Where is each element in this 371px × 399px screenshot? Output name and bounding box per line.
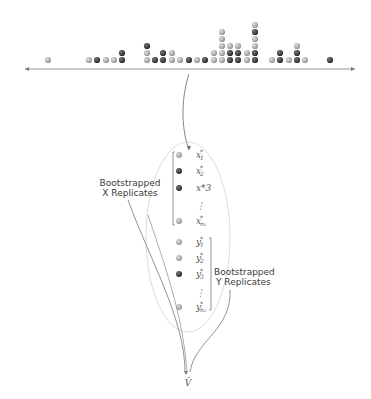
x-replicate-label: x*n₁ — [196, 214, 206, 227]
data-dot-light — [211, 50, 217, 56]
data-dot-light — [252, 36, 258, 42]
y-replicate-dot-light — [176, 239, 182, 245]
sampling-arrowhead-icon — [187, 146, 191, 150]
data-dot-light — [177, 57, 183, 63]
axis-left-arrow-icon — [25, 67, 29, 71]
data-dot-dark — [277, 50, 283, 56]
y-replicate-dot-dark — [176, 271, 182, 277]
data-dot-light — [219, 43, 225, 49]
dot-plot — [45, 22, 333, 63]
data-dot-dark — [186, 57, 192, 63]
data-dot-light — [219, 36, 225, 42]
y-group-label-line2: Y Replicates — [215, 277, 271, 287]
data-dot-dark — [294, 50, 300, 56]
number-line-axis — [25, 67, 355, 71]
data-dot-light — [294, 43, 300, 49]
data-dot-dark — [252, 29, 258, 35]
data-dot-light — [244, 50, 250, 56]
output-arrowhead-icon — [184, 371, 188, 375]
data-dot-dark — [277, 57, 283, 63]
y-replicate-dot-light — [176, 255, 182, 261]
data-dot-light — [86, 57, 92, 63]
x-replicate-dot-dark — [176, 185, 182, 191]
data-dot-light — [235, 43, 241, 49]
data-dot-light — [194, 57, 200, 63]
x-replicate-dot-light — [176, 218, 182, 224]
data-dot-light — [227, 43, 233, 49]
data-dot-light — [169, 50, 175, 56]
data-dot-light — [252, 22, 258, 28]
data-dot-dark — [235, 50, 241, 56]
data-dot-light — [45, 57, 51, 63]
data-dot-light — [111, 57, 117, 63]
data-dot-light — [244, 57, 250, 63]
output-estimate-label: V̂ — [185, 377, 193, 388]
data-dot-dark — [94, 57, 100, 63]
data-dot-light — [219, 57, 225, 63]
data-dot-dark — [152, 57, 158, 63]
y-replicate-label: ⋮ — [196, 288, 205, 298]
data-dot-dark — [202, 57, 208, 63]
replicate-list: x*1x*2x*3⋮x*n₁y*1y*2y*3⋮y*n₂ — [176, 148, 212, 313]
data-dot-dark — [119, 50, 125, 56]
data-dot-light — [286, 57, 292, 63]
y-replicate-label: y*2 — [195, 251, 204, 264]
x-group-label-line1: Bootstrapped — [100, 178, 161, 188]
x-replicate-label: x*1 — [196, 148, 204, 161]
data-dot-light — [269, 57, 275, 63]
data-dot-dark — [252, 50, 258, 56]
y-replicate-label: y*n₂ — [195, 300, 207, 313]
x-replicate-label: ⋮ — [196, 201, 205, 211]
y-replicate-label: y*3 — [195, 267, 204, 280]
data-dot-dark — [227, 50, 233, 56]
data-dot-light — [144, 57, 150, 63]
data-dot-dark — [294, 57, 300, 63]
data-dot-dark — [160, 57, 166, 63]
sampling-arrow — [183, 74, 189, 150]
data-dot-dark — [252, 57, 258, 63]
x-to-output-curve — [128, 200, 185, 372]
axis-right-arrow-icon — [351, 67, 355, 71]
y-group-label-line1: Bootstrapped — [214, 267, 275, 277]
data-dot-light — [103, 57, 109, 63]
x-replicate-label: x*2 — [196, 164, 204, 177]
data-dot-dark — [160, 50, 166, 56]
x-group-label-line2: X Replicates — [102, 188, 158, 198]
data-dot-light — [211, 57, 217, 63]
data-dot-dark — [235, 57, 241, 63]
data-dot-light — [219, 50, 225, 56]
x-replicate-dot-dark — [176, 168, 182, 174]
data-dot-dark — [227, 57, 233, 63]
y-replicate-label: y*1 — [195, 235, 204, 248]
data-dot-light — [169, 57, 175, 63]
data-dot-dark — [119, 57, 125, 63]
data-dot-light — [144, 50, 150, 56]
replicate-ellipse — [146, 142, 230, 332]
bootstrap-diagram: x*1x*2x*3⋮x*n₁y*1y*2y*3⋮y*n₂ Bootstrappe… — [0, 0, 371, 399]
x-replicate-dot-light — [176, 152, 182, 158]
data-dot-dark — [144, 43, 150, 49]
data-dot-light — [302, 57, 308, 63]
data-dot-light — [252, 43, 258, 49]
x-replicate-label: x*3 — [196, 183, 212, 193]
data-dot-dark — [327, 57, 333, 63]
data-dot-light — [219, 29, 225, 35]
